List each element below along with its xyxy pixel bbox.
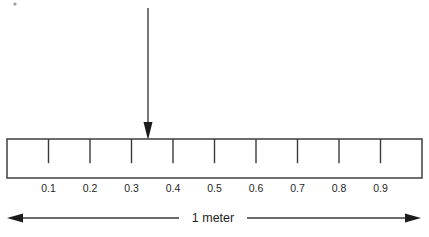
scan-speck — [13, 2, 16, 5]
ruler-tick-label: 0.5 — [207, 182, 222, 194]
ruler-tick-label: 0.9 — [373, 182, 388, 194]
pointer-group — [144, 8, 153, 140]
dimension-group: 1 meter — [7, 211, 421, 225]
dimension-label: 1 meter — [192, 211, 234, 225]
ruler-tick-label: 0.2 — [83, 182, 98, 194]
ruler-tick-label: 0.7 — [290, 182, 305, 194]
meter-stick-figure: 0.10.20.30.40.50.60.70.80.9 1 meter — [0, 0, 429, 237]
dimension-arrowhead-right-icon — [405, 214, 421, 223]
pointer-arrowhead-icon — [144, 122, 153, 140]
ruler-tick-label: 0.8 — [332, 182, 347, 194]
diagram-canvas: 0.10.20.30.40.50.60.70.80.9 1 meter — [0, 0, 429, 237]
ruler-tick-label: 0.1 — [41, 182, 56, 194]
ruler-tick-label: 0.6 — [249, 182, 264, 194]
ruler-tick-label: 0.4 — [166, 182, 181, 194]
ruler-tick-label: 0.3 — [124, 182, 139, 194]
dimension-arrowhead-left-icon — [7, 214, 23, 223]
ruler-label-group: 0.10.20.30.40.50.60.70.80.9 — [41, 182, 388, 194]
